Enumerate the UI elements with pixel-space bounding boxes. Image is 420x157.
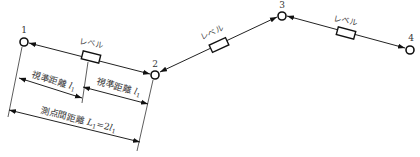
survey-point-1 bbox=[20, 38, 28, 46]
survey-point-2 bbox=[151, 71, 159, 79]
level-instrument-1 bbox=[81, 51, 100, 63]
level-instrument-2 bbox=[209, 38, 229, 53]
extension-line-level-1 bbox=[82, 62, 88, 103]
leveling-diagram: レベル レベル レベル 1 2 3 4 視準距離 l1 視準距離 l1 測点間距… bbox=[0, 0, 420, 157]
level-instrument-3 bbox=[336, 27, 355, 39]
survey-point-4 bbox=[406, 46, 414, 54]
point-label-1: 1 bbox=[21, 25, 27, 35]
level-label-3: レベル bbox=[333, 14, 358, 28]
point-label-3: 3 bbox=[279, 0, 285, 10]
point-label-2: 2 bbox=[152, 59, 158, 69]
station-distance-label: 測点間距離 L1=2l1 bbox=[39, 104, 117, 134]
level-label-1: レベル bbox=[79, 37, 104, 49]
extension-line-point-1 bbox=[8, 47, 22, 117]
point-label-4: 4 bbox=[408, 33, 414, 43]
sight-distance-label-2: 視準距離 l1 bbox=[95, 75, 142, 98]
survey-point-3 bbox=[278, 12, 286, 20]
